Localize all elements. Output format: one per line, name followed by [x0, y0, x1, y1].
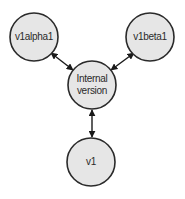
node-v1: v1	[67, 138, 115, 186]
node-label-line-2: version	[77, 85, 107, 96]
node-label: v1alpha1	[15, 31, 54, 42]
version-conversion-diagram: v1alpha1 v1beta1 Internal version v1	[0, 0, 185, 199]
node-v1beta1: v1beta1	[126, 13, 174, 61]
edge-v1alpha1-internal	[51, 53, 73, 70]
edge-v1beta1-internal	[111, 53, 134, 70]
node-label: v1beta1	[133, 31, 167, 42]
node-internal-version: Internal version	[68, 61, 116, 109]
node-label-line-1: Internal	[77, 73, 108, 84]
node-v1alpha1: v1alpha1	[10, 13, 58, 61]
node-label: v1	[86, 156, 97, 167]
